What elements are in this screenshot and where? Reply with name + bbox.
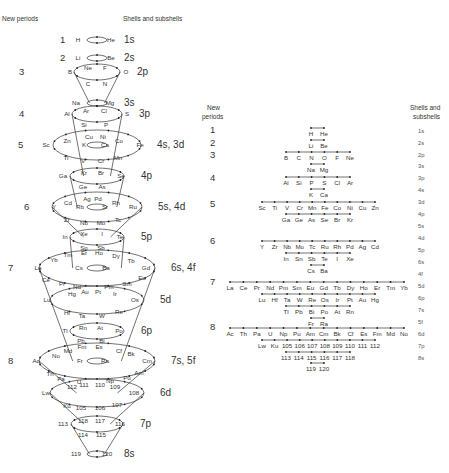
element-symbol: La (35, 264, 42, 271)
arrow-marker (116, 67, 118, 69)
arrow-marker (73, 240, 75, 242)
element-symbol: Ku (63, 402, 71, 409)
element-symbol: Pu (123, 374, 131, 381)
arrow-marker (286, 201, 288, 203)
arrow-marker (324, 351, 326, 353)
arrow-marker (54, 148, 56, 150)
arrow-marker (350, 281, 352, 283)
element-symbol: I (101, 230, 103, 237)
element-symbol: Na (72, 99, 80, 106)
element-symbol: Cm (142, 357, 152, 364)
element-symbol: Te (117, 233, 124, 240)
element-symbol: Fm (373, 330, 382, 337)
right-period-numbers: 12345678 (210, 124, 215, 332)
shell-label: 3s (418, 163, 424, 169)
arrow-marker (298, 213, 300, 215)
element-symbol: Am (306, 330, 315, 337)
arrow-marker (374, 201, 376, 203)
shell-label: 5d (418, 283, 424, 289)
arrow-marker (274, 293, 276, 295)
element-row: AlSiPSClAr (283, 176, 353, 186)
element-symbol: Hg (68, 290, 76, 297)
element-symbol: Fe (321, 204, 329, 211)
arrow-marker (309, 281, 311, 283)
diagram-canvas: New periods Shells and subshells HHe11sL… (0, 0, 449, 473)
arrow-marker (73, 326, 75, 328)
element-symbol: 116 (319, 354, 329, 361)
element-symbol: F (335, 154, 339, 161)
element-symbol: H (309, 130, 313, 137)
element-symbol: Lw (258, 342, 266, 349)
element-symbol: Fe (136, 141, 144, 148)
arrow-marker (274, 339, 276, 341)
arrow-marker (96, 228, 98, 230)
arrow-marker (296, 327, 298, 329)
element-symbol: 114 (294, 354, 304, 361)
arrow-marker (336, 151, 338, 153)
shell-ellipse (87, 37, 107, 43)
period-number: 4 (19, 108, 24, 119)
arrow-marker (286, 339, 288, 341)
element-symbol: Yb (400, 284, 408, 291)
element-symbol: 120 (319, 365, 330, 372)
element-symbol: Tb (127, 257, 135, 264)
element-symbol: Al (64, 110, 70, 117)
left-panel-headers: New periods Shells and subshells (2, 15, 183, 23)
element-symbol: Ra (101, 357, 109, 364)
element-symbol: Pm (279, 284, 288, 291)
arrow-marker (362, 201, 364, 203)
shell-ellipse (87, 100, 107, 106)
arrow-marker (336, 213, 338, 215)
element-symbol: W (99, 312, 105, 319)
period-number: 3 (210, 149, 215, 160)
element-symbol: Mn (308, 204, 317, 211)
element-symbol: Be (107, 54, 115, 61)
arrow-marker (323, 139, 325, 141)
arrow-marker (336, 240, 338, 242)
arrow-marker (124, 310, 126, 312)
element-symbol: Ta (284, 296, 291, 303)
element-symbol: P (104, 121, 108, 128)
arrow-marker (336, 327, 338, 329)
element-symbol: Pt (347, 296, 353, 303)
arrow-marker (403, 327, 405, 329)
shell-ellipse (87, 55, 107, 61)
arrow-marker (53, 210, 55, 212)
shell-label: 3p (418, 175, 424, 181)
right-panel-headers: New periods Shells and subshells (202, 104, 441, 121)
element-symbol: Cu (358, 204, 366, 211)
element-symbol: Tl (283, 308, 288, 315)
element-symbol: Am (134, 369, 143, 376)
arrow-marker (349, 339, 351, 341)
element-symbol: Md (386, 330, 395, 337)
element-symbol: V (81, 157, 86, 164)
arrow-marker (299, 240, 301, 242)
element-symbol: Cm (319, 330, 329, 337)
arrow-marker (298, 351, 300, 353)
element-symbol: Se (117, 172, 125, 179)
arrow-marker (108, 130, 110, 132)
element-symbol: Mn (114, 154, 123, 161)
arrow-marker (323, 327, 325, 329)
element-symbol: 110 (345, 342, 355, 349)
cone-line (121, 237, 124, 268)
element-symbol: Ho (360, 284, 368, 291)
arrow-marker (107, 342, 109, 344)
element-symbol: Rb (76, 203, 84, 210)
element-symbol: 107 (112, 401, 123, 408)
element-symbol: Nb (283, 243, 291, 250)
arrow-marker (96, 36, 98, 38)
arrow-marker (323, 163, 325, 165)
element-symbol: 112 (67, 383, 77, 390)
element-symbol: B (68, 68, 72, 75)
arrow-marker (323, 317, 325, 319)
shell-label: 3p (139, 108, 151, 119)
element-symbol: W (297, 296, 303, 303)
ring-4s-3d: ScZnCuNiCoFeKCaTiVCrMn54s, 3d (18, 130, 184, 164)
ring-3p: AlArClSSiP43p (19, 105, 151, 128)
element-symbol: Ce (42, 276, 50, 283)
arrow-marker (336, 252, 338, 254)
left-cone-lines (39, 72, 155, 454)
arrow-marker (96, 99, 98, 101)
arrow-marker (311, 240, 313, 242)
